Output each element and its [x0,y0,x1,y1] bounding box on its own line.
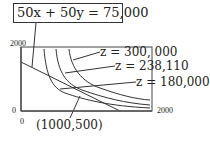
leader-point [70,96,80,118]
leader-z238110 [65,66,115,73]
y-tick-max: 2000 [10,40,26,48]
leader-z180000 [60,82,136,89]
y-tick-min: 0 [12,107,16,115]
label-optimal-point: (1000,500) [36,119,103,131]
constraint-label: 50x + 50y = 75,000 [13,3,123,23]
label-z238110: z = 238,110 [115,60,189,72]
x-tick-min: 0 [20,118,24,126]
constraint-leader [32,23,36,67]
x-tick-max: 2000 [157,107,173,115]
leader-z300000 [73,52,100,60]
label-z300000: z = 300, 000 [100,46,177,58]
label-z180000: z = 180,000 [136,76,210,88]
